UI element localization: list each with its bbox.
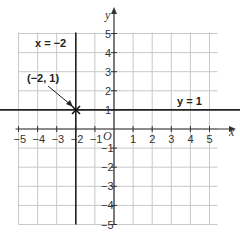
x-tick-label: 4: [187, 133, 193, 145]
x-tick-label: −4: [33, 133, 46, 145]
origin-label: O: [103, 129, 112, 143]
pointer-arrow: [48, 86, 73, 107]
y-tick-label: −3: [101, 180, 114, 192]
y-tick-label: 2: [105, 85, 111, 97]
x-tick-label: 2: [149, 133, 155, 145]
y-tick-label: −2: [101, 161, 114, 173]
y-tick-label: −5: [101, 219, 114, 231]
vertical-line-label: x = −2: [35, 37, 66, 49]
x-tick-label: 1: [130, 133, 136, 145]
y-tick-label: −4: [101, 199, 114, 211]
x-tick-label: 3: [168, 133, 174, 145]
x-tick-label: 5: [207, 133, 213, 145]
y-tick-label: 3: [105, 66, 111, 78]
coordinate-grid: −5−4−3−2−11234554321−1−2−3−4−5 x y O x =…: [0, 0, 240, 244]
horizontal-line-label: y = 1: [177, 95, 202, 107]
y-tick-label: −1: [101, 142, 114, 154]
y-tick-label: 5: [105, 28, 111, 40]
x-tick-label: −3: [52, 133, 65, 145]
x-tick-label: −2: [71, 133, 84, 145]
y-tick-label: 4: [105, 47, 111, 59]
x-axis-label: x: [228, 125, 235, 139]
point-label: (−2, 1): [27, 72, 59, 84]
x-tick-label: −5: [14, 133, 27, 145]
y-axis-label: y: [104, 8, 111, 22]
